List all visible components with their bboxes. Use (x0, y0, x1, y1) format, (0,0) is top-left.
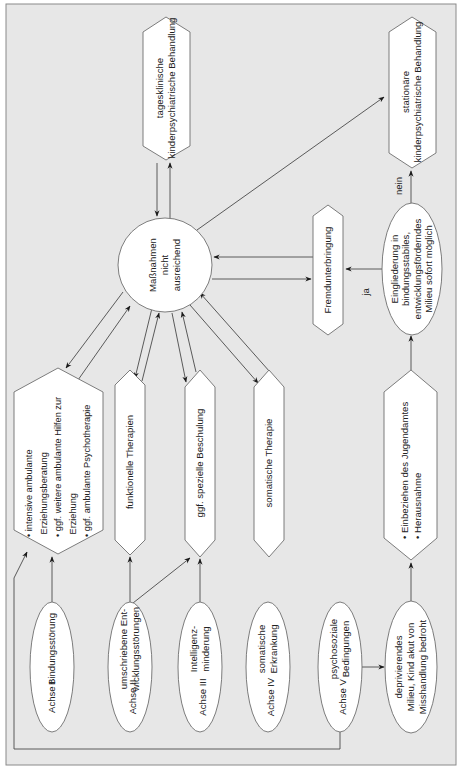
label-line: wicklungsstörungen (130, 607, 141, 692)
label-line: nicht (159, 255, 170, 276)
foster-care-label: Fremdunterbringung (322, 227, 333, 314)
somatic-therapy-label: somatische Therapie (263, 419, 274, 508)
axis-node-5: Achse VpsychosozialeBedingungen (318, 602, 362, 732)
child-psychiatry-treatment-flowchart: Maßnahmennichtausreichend tagesklinische… (0, 0, 462, 770)
label-line: kinderpsychiatrische Behandlung (166, 18, 177, 159)
label-line: bindungsstabiles, (400, 232, 411, 306)
label-line: Erziehung (68, 493, 78, 537)
axis-node-2: Achse IIumschriebene Ent-wicklungsstörun… (108, 602, 152, 732)
node-deprivation: deprivierendesMilieu, Kind akut vonMissh… (385, 601, 437, 733)
axis-description: Intelligenz-minderung (188, 626, 211, 672)
node-special-schooling: ggf. spezielle Beschulung (185, 370, 215, 557)
node-somatic-therapy: somatische Therapie (254, 370, 284, 557)
special-schooling-label: ggf. spezielle Beschulung (194, 409, 205, 518)
label-line: Bedingungen (340, 621, 351, 678)
axis-description: umschriebene Ent-wicklungsstörungen (118, 607, 141, 692)
axis-description: psychosozialeBedingungen (328, 619, 351, 679)
label-line: somatische (256, 625, 267, 674)
label-line: Milieu sofort möglich (423, 225, 434, 312)
axis-description: Bindungsstörung (46, 613, 57, 685)
label-line: • ggf. ambulante Psychotherapie (82, 405, 92, 537)
node-integration-decision: Eingliederung inbindungsstabiles,entwick… (382, 203, 442, 335)
label-line: Erkrankung (268, 624, 279, 673)
label-line: somatische Therapie (263, 419, 274, 508)
label-line: • intensive ambulante (24, 450, 34, 538)
label-line: Milieu, Kind akut von (405, 623, 416, 712)
label-line: • Einbeziehen des Jugendamtes (399, 402, 410, 539)
label-line: Bindungsstörung (46, 613, 57, 685)
node-inpatient: stationärekinderpsychiatrische Behandlun… (389, 17, 436, 168)
label-line: stationäre (400, 71, 411, 113)
label-line: ausreichend (171, 239, 182, 291)
axis-description: somatischeErkrankung (256, 624, 279, 673)
label-line: tagesklinische (154, 58, 165, 118)
label-line: ggf. spezielle Beschulung (194, 409, 205, 518)
axis-name: Achse V (337, 679, 348, 715)
label-line: deprivierendes (393, 635, 404, 698)
node-youth-office: • Einbeziehen des Jugendamtes• Herausnah… (384, 370, 437, 560)
node-day-clinic: tagesklinischekinderpsychiatrische Behan… (143, 17, 190, 160)
label-line: • Herausnahme (412, 473, 423, 539)
axis-node-3: Achse IIIIntelligenz-minderung (178, 602, 222, 732)
label-line: kinderpsychiatrische Behandlung (412, 22, 423, 163)
label-line: umschriebene Ent- (118, 609, 129, 690)
functional-therapies-label: funktionelle Therapien (124, 415, 135, 509)
node-foster-care: Fremdunterbringung (313, 205, 343, 335)
label-line: minderung (200, 626, 211, 671)
edge-label-yes: ja (360, 288, 371, 297)
node-measures-insufficient: Maßnahmennichtausreichend (118, 218, 212, 312)
label-line: • ggf. weitere ambulante Hilfen zur (53, 397, 63, 537)
axis-node-4: Achse IVsomatischeErkrankung (246, 602, 290, 732)
node-functional-therapies: funktionelle Therapien (115, 370, 145, 555)
edge-label-no: nein (393, 177, 404, 195)
axis-node-1: Achse IBindungsstörung (30, 602, 74, 732)
label-line: Erziehungsberatung (39, 452, 49, 537)
node-ambulant-measures: • intensive ambulante Erziehungsberatung… (14, 368, 103, 554)
label-line: Fremdunterbringung (322, 227, 333, 314)
axis-name: Achse III (197, 678, 208, 715)
label-line: entwicklungsförderndes (412, 218, 423, 319)
label-line: Maßnahmen (147, 238, 158, 292)
label-line: Eingliederung in (389, 235, 400, 304)
label-line: Misshandlung bedroht (417, 619, 428, 714)
axis-name: Achse IV (265, 677, 276, 716)
label-line: funktionelle Therapien (124, 415, 135, 509)
label-line: Intelligenz- (188, 626, 199, 672)
label-line: psychosoziale (328, 619, 339, 679)
